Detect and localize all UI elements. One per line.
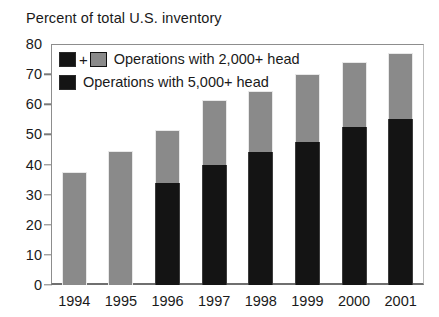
y-tick-label: 10	[26, 247, 42, 263]
bar-1995	[108, 151, 133, 285]
bar-2000	[342, 62, 367, 285]
bar-segment-5000-head	[202, 165, 227, 286]
y-tick-label: 70	[26, 66, 42, 82]
bar-segment-2000-head	[155, 130, 180, 183]
bar-segment-5000-head	[248, 152, 273, 285]
bar-2001	[388, 53, 413, 285]
x-tick-label-1999: 1999	[291, 293, 323, 309]
legend-plus-symbol: +	[79, 52, 88, 67]
bar-1996	[155, 130, 180, 285]
legend-swatch-black-icon	[59, 52, 76, 67]
bar-segment-2000-head	[248, 91, 273, 153]
y-tick-label: 40	[26, 157, 42, 173]
bar-segment-5000-head	[342, 127, 367, 285]
y-axis: 01020304050607080	[0, 0, 48, 317]
x-tick-label-1995: 1995	[105, 293, 137, 309]
bar-segment-5000-head	[295, 142, 320, 285]
x-tick-label-1996: 1996	[151, 293, 183, 309]
x-tick-label-1994: 1994	[58, 293, 90, 309]
y-tick-label: 20	[26, 217, 42, 233]
bar-1997	[202, 100, 227, 285]
x-tick-label-2000: 2000	[338, 293, 370, 309]
bar-1998	[248, 91, 273, 285]
x-axis: 19941995199619971998199920002001	[0, 289, 439, 317]
bar-segment-5000-head	[155, 183, 180, 285]
y-tick-label: 80	[26, 36, 42, 52]
legend-swatch-gray-icon	[90, 52, 107, 67]
x-tick-label-2001: 2001	[385, 293, 417, 309]
bar-segment-2000-head	[202, 100, 227, 165]
x-tick-label-1997: 1997	[198, 293, 230, 309]
bar-segment-5000-head	[388, 119, 413, 285]
bar-1994	[62, 172, 87, 285]
x-tick-label-1998: 1998	[245, 293, 277, 309]
y-tick-label: 60	[26, 96, 42, 112]
bar-1999	[295, 74, 320, 285]
bar-segment-2000-head	[108, 151, 133, 285]
legend-item-2000-head: + Operations with 2,000+ head	[59, 48, 359, 70]
bar-segment-2000-head	[62, 172, 87, 285]
chart-figure: Percent of total U.S. inventory 01020304…	[0, 0, 439, 317]
legend-swatch-black-2-icon	[59, 75, 76, 90]
legend-item-5000-head: Operations with 5,000+ head	[59, 71, 359, 93]
chart-legend: + Operations with 2,000+ head Operations…	[59, 48, 359, 94]
y-tick-label: 50	[26, 126, 42, 142]
bar-segment-2000-head	[388, 53, 413, 119]
y-tick-label: 30	[26, 187, 42, 203]
legend-label-2000-head: Operations with 2,000+ head	[114, 51, 300, 67]
legend-label-5000-head: Operations with 5,000+ head	[83, 74, 269, 90]
